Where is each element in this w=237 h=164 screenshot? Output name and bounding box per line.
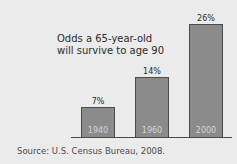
chart-title-line-1: Odds a 65-year-old [57, 33, 187, 45]
value-label-1960: 14% [135, 67, 169, 76]
category-label-1940: 1940 [82, 126, 114, 135]
value-label-1940: 7% [81, 97, 115, 106]
value-label-2000: 26% [189, 14, 223, 23]
bar-1960: 1960 [135, 77, 169, 137]
bar-1940: 1940 [81, 107, 115, 137]
chart-title: Odds a 65-year-old will survive to age 9… [57, 33, 187, 57]
source-note: Source: U.S. Census Bureau, 2008. [17, 146, 165, 156]
category-label-1960: 1960 [136, 126, 168, 135]
x-axis-baseline [71, 137, 232, 138]
bar-2000: 2000 [189, 24, 223, 137]
category-label-2000: 2000 [190, 126, 222, 135]
chart-title-line-2: will survive to age 90 [57, 45, 187, 57]
